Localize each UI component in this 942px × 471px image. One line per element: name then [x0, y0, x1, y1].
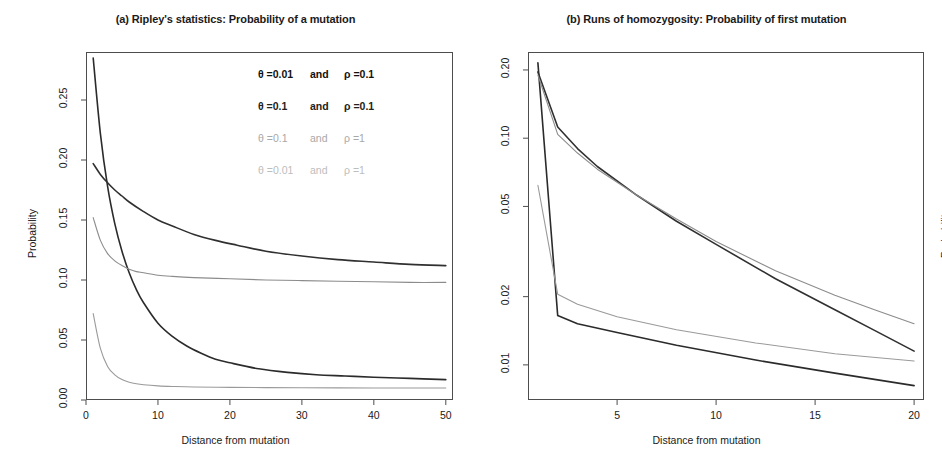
x-tick-label: 15 [795, 409, 835, 421]
x-tick-label: 40 [354, 409, 394, 421]
legend-theta-value: θ =0.01 [258, 68, 310, 80]
legend-entry: θ =0.01andρ =1 [258, 164, 374, 176]
x-tick-label: 30 [282, 409, 322, 421]
y-tick-label: 0.15 [57, 204, 69, 232]
panel-a-x-axis-label: Distance from mutation [0, 434, 471, 446]
legend-theta-value: θ =0.01 [258, 164, 310, 176]
series-line-0 [538, 63, 914, 386]
panel-b: (b) Runs of homozygosity: Probability of… [471, 0, 942, 471]
panel-b-x-axis-label: Distance from mutation [471, 434, 942, 446]
legend-rho-value: ρ =0.1 [344, 68, 374, 80]
legend-conjunction: and [310, 100, 344, 112]
x-tick-label: 5 [597, 409, 637, 421]
legend-rho-value: ρ =1 [344, 164, 365, 176]
x-tick-label: 10 [138, 409, 178, 421]
panel-a-legend: θ =0.01andρ =0.1θ =0.1andρ =0.1θ =0.1and… [258, 68, 374, 196]
x-tick-label: 0 [66, 409, 106, 421]
y-tick-label: 0.02 [499, 281, 511, 309]
y-tick-label: 0.25 [57, 84, 69, 112]
legend-entry: θ =0.01andρ =0.1 [258, 68, 374, 80]
x-tick-label: 10 [696, 409, 736, 421]
y-tick-label: 0.20 [499, 54, 511, 82]
y-tick-label: 0.05 [57, 324, 69, 352]
series-line-2 [538, 75, 914, 324]
y-tick-label: 0.10 [499, 122, 511, 150]
panel-a-curves [0, 0, 471, 471]
legend-entry: θ =0.1andρ =1 [258, 132, 374, 144]
series-line-3 [93, 314, 446, 388]
panel-b-curves [471, 0, 942, 471]
y-tick-label: 0.00 [57, 384, 69, 412]
legend-theta-value: θ =0.1 [258, 100, 310, 112]
panel-a-y-axis-label: Probability [26, 209, 38, 258]
legend-conjunction: and [310, 164, 344, 176]
series-line-3 [538, 185, 914, 361]
x-tick-label: 20 [210, 409, 250, 421]
legend-theta-value: θ =0.1 [258, 132, 310, 144]
legend-rho-value: ρ =1 [344, 132, 365, 144]
legend-entry: θ =0.1andρ =0.1 [258, 100, 374, 112]
y-tick-label: 0.20 [57, 144, 69, 172]
legend-rho-value: ρ =0.1 [344, 100, 374, 112]
series-line-2 [93, 218, 446, 283]
y-tick-label: 0.01 [499, 349, 511, 377]
y-tick-label: 0.05 [499, 190, 511, 218]
x-tick-label: 20 [894, 409, 934, 421]
y-tick-label: 0.10 [57, 264, 69, 292]
legend-conjunction: and [310, 132, 344, 144]
panel-a: (a) Ripley's statistics: Probability of … [0, 0, 471, 471]
x-tick-label: 50 [426, 409, 466, 421]
legend-conjunction: and [310, 68, 344, 80]
figure-root: (a) Ripley's statistics: Probability of … [0, 0, 942, 471]
